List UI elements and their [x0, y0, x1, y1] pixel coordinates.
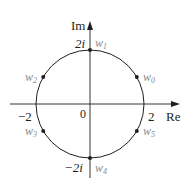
real-axis-label: Re: [166, 109, 181, 124]
tick-neg-real: −2: [18, 109, 32, 124]
label-w5: w5: [143, 124, 155, 139]
tick-pos-real: 2: [148, 109, 155, 124]
label-w0: w0: [143, 70, 155, 85]
label-w1: w1: [95, 36, 107, 51]
label-w4: w4: [95, 161, 107, 176]
label-w3: w3: [25, 124, 37, 139]
tick-neg-imag: −2i: [64, 160, 83, 175]
tick-pos-imag: 2i: [75, 36, 86, 51]
point-w2: [41, 75, 45, 79]
point-w5: [135, 129, 139, 133]
origin-label: 0: [80, 107, 86, 121]
point-w0: [135, 75, 139, 79]
real-axis-arrow-icon: [171, 101, 180, 107]
imag-axis-arrow-icon: [87, 21, 93, 30]
point-w1: [88, 48, 92, 52]
point-w3: [41, 129, 45, 133]
imag-axis-label: Im: [71, 18, 85, 33]
point-w4: [88, 156, 92, 160]
label-w2: w2: [25, 70, 37, 85]
complex-plane-diagram: Im Re 0 2 −2 2i −2i w1 w0 w2 w3 w5 w4: [0, 0, 194, 188]
